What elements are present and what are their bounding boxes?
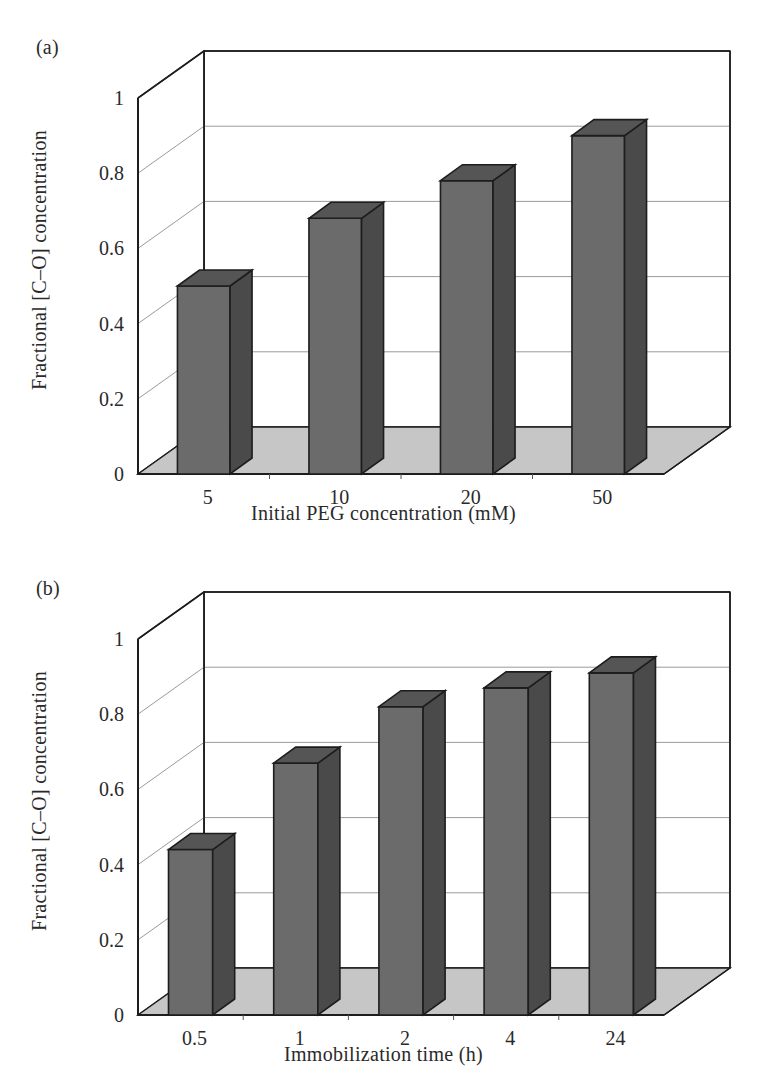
bar-front-face xyxy=(177,286,230,474)
bar-front-face xyxy=(169,850,213,1015)
bar-group xyxy=(169,834,235,1015)
bar-side-face xyxy=(213,834,235,1015)
bar-group xyxy=(484,672,550,1015)
bar-side-face xyxy=(493,165,515,474)
bar-front-face xyxy=(440,181,493,474)
y-tick-label: 0.4 xyxy=(99,854,124,876)
bar-front-face xyxy=(309,218,362,474)
y-tick-label: 0.4 xyxy=(99,313,124,335)
y-tick-label: 0.8 xyxy=(99,703,124,725)
bar-group xyxy=(177,270,252,474)
y-tick-label: 0.2 xyxy=(99,388,124,410)
bar-group xyxy=(379,691,445,1015)
y-tick-label: 0.8 xyxy=(99,162,124,184)
bar-front-face xyxy=(589,673,633,1015)
bar-front-face xyxy=(274,763,318,1015)
x-axis-title-a: Initial PEG concentration (mM) xyxy=(0,502,767,525)
bar-side-face xyxy=(318,747,340,1015)
chart-panel-a: (a) Fractional [C–O] concentration 00.20… xyxy=(0,0,767,541)
bar-front-face xyxy=(572,136,625,474)
bar-side-face xyxy=(230,270,252,474)
y-tick-label: 1 xyxy=(114,87,124,109)
bar-group xyxy=(589,657,655,1015)
y-tick-label: 0 xyxy=(114,1004,124,1026)
bar-side-face xyxy=(362,202,384,474)
figure-container: (a) Fractional [C–O] concentration 00.20… xyxy=(0,0,767,1082)
y-tick-label: 1 xyxy=(114,628,124,650)
x-axis-title-b: Immobilization time (h) xyxy=(0,1043,767,1066)
bar-side-face xyxy=(528,672,550,1015)
bar-group xyxy=(309,202,384,474)
bar-side-face xyxy=(633,657,655,1015)
y-tick-label: 0.2 xyxy=(99,929,124,951)
y-tick-label: 0.6 xyxy=(99,778,124,800)
bar-side-face xyxy=(625,120,647,474)
chart-plot-a: 00.20.40.60.815102050 xyxy=(0,0,767,510)
bar-front-face xyxy=(379,707,423,1015)
bar-group xyxy=(274,747,340,1015)
chart-panel-b: (b) Fractional [C–O] concentration 00.20… xyxy=(0,541,767,1082)
bar-group xyxy=(572,120,647,474)
y-tick-label: 0 xyxy=(114,463,124,485)
bar-side-face xyxy=(423,691,445,1015)
bar-front-face xyxy=(484,688,528,1015)
chart-plot-b: 00.20.40.60.810.512424 xyxy=(0,541,767,1051)
bar-group xyxy=(440,165,515,474)
y-tick-label: 0.6 xyxy=(99,237,124,259)
